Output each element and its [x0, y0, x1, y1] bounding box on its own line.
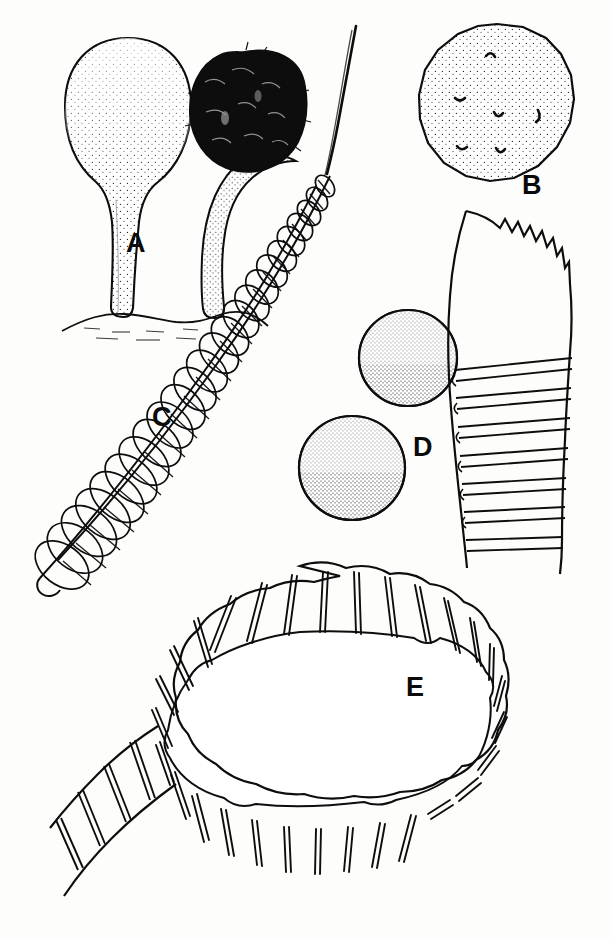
figure-label-a: A: [126, 230, 146, 257]
illustration-plate: A B C D E: [0, 0, 611, 939]
figure-label-b: B: [522, 172, 542, 199]
figure-label-e: E: [406, 674, 424, 701]
plate-canvas: [0, 0, 611, 939]
figure-label-d: D: [413, 434, 433, 461]
figure-label-c: C: [152, 404, 172, 431]
